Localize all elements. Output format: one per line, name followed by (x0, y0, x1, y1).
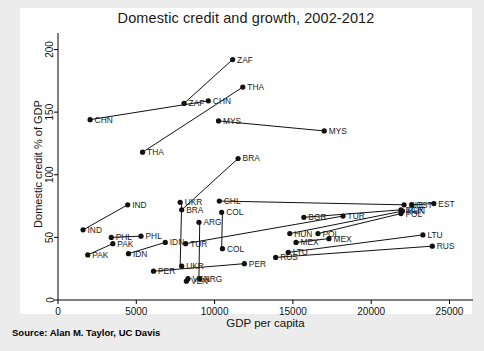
svg-text:RUS: RUS (280, 252, 298, 262)
svg-text:ZAF: ZAF (189, 98, 205, 108)
svg-text:PER: PER (158, 266, 175, 276)
svg-text:CHN: CHN (213, 96, 231, 106)
data-points-layer: ZAFZAFTHATHACHNCHNMYSMYSBRABRAINDINDUKRU… (80, 55, 454, 287)
svg-text:5000: 5000 (125, 306, 148, 317)
svg-text:PER: PER (249, 259, 266, 269)
svg-text:LTU: LTU (427, 230, 442, 240)
svg-text:POL: POL (405, 209, 422, 219)
svg-text:PAK: PAK (117, 239, 134, 249)
svg-text:IND: IND (88, 225, 102, 235)
svg-text:THA: THA (247, 82, 264, 92)
svg-text:PHL: PHL (146, 231, 163, 241)
svg-text:PAK: PAK (92, 250, 109, 260)
svg-text:CHN: CHN (95, 115, 113, 125)
svg-text:RUS: RUS (437, 241, 455, 251)
svg-text:BGR: BGR (308, 212, 326, 222)
svg-text:UKR: UKR (185, 197, 203, 207)
svg-text:TUR: TUR (348, 211, 365, 221)
svg-text:MEX: MEX (333, 234, 352, 244)
svg-text:IND: IND (132, 200, 146, 210)
svg-text:25000: 25000 (436, 306, 464, 317)
svg-text:THA: THA (147, 147, 164, 157)
svg-text:50: 50 (45, 231, 56, 243)
svg-text:IDN: IDN (170, 237, 184, 247)
svg-text:ARG: ARG (203, 217, 221, 227)
svg-text:MEX: MEX (301, 237, 320, 247)
svg-text:CHL: CHL (224, 196, 241, 206)
scatter-plot: 0501001502000500010000150002000025000 ZA… (0, 0, 484, 351)
svg-text:COL: COL (226, 207, 244, 217)
svg-text:150: 150 (45, 103, 56, 120)
svg-text:BRA: BRA (243, 153, 261, 163)
svg-text:VEN: VEN (192, 274, 209, 284)
svg-text:15000: 15000 (279, 306, 307, 317)
svg-text:0: 0 (45, 297, 56, 303)
svg-text:EST: EST (438, 199, 454, 209)
svg-text:COL: COL (227, 244, 245, 254)
svg-text:0: 0 (55, 306, 61, 317)
svg-text:UKR: UKR (186, 261, 204, 271)
svg-text:MYS: MYS (223, 116, 242, 126)
svg-text:200: 200 (45, 41, 56, 58)
svg-text:10000: 10000 (201, 306, 229, 317)
svg-text:100: 100 (45, 166, 56, 183)
chart-figure: Domestic credit and growth, 2002-2012 Do… (0, 0, 484, 351)
svg-text:MYS: MYS (329, 126, 348, 136)
svg-text:IDN: IDN (133, 249, 147, 259)
svg-text:TUR: TUR (190, 239, 207, 249)
svg-text:ZAF: ZAF (237, 55, 253, 65)
axes-layer: 0501001502000500010000150002000025000 (45, 33, 474, 317)
svg-text:20000: 20000 (357, 306, 385, 317)
